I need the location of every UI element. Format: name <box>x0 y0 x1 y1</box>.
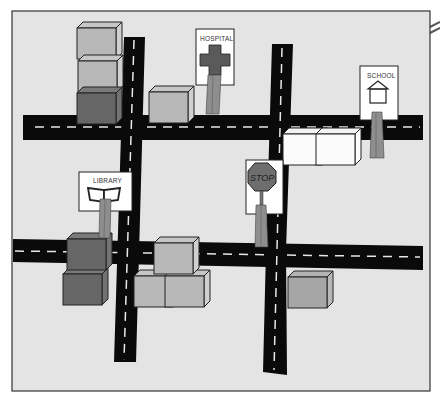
block-white[interactable] <box>316 128 361 165</box>
block-light[interactable] <box>165 270 210 307</box>
block-stack-dark[interactable] <box>63 233 112 305</box>
block-light[interactable] <box>77 22 122 59</box>
clothespin <box>370 112 384 158</box>
hospital-sign-label: HOSPITAL <box>200 35 233 42</box>
block-single-lower-right[interactable] <box>288 271 333 308</box>
block-pair-white[interactable] <box>283 128 361 165</box>
block-light[interactable] <box>154 237 199 274</box>
block-dark[interactable] <box>67 233 112 270</box>
corner-stripes <box>430 22 440 33</box>
town-map: HOSPITAL SCHOOL STOP LIBRARY <box>0 0 440 400</box>
block-dark[interactable] <box>77 87 122 124</box>
block-stack-tall[interactable] <box>77 22 123 124</box>
block-light[interactable] <box>78 55 123 92</box>
library-sign-label: LIBRARY <box>93 177 123 184</box>
block-single-hospital[interactable] <box>149 86 194 123</box>
block-dark[interactable] <box>63 268 108 305</box>
clothespin <box>206 75 221 114</box>
clothespin <box>255 205 268 247</box>
school-sign-label: SCHOOL <box>367 72 396 79</box>
stop-sign-label: STOP <box>250 173 274 183</box>
